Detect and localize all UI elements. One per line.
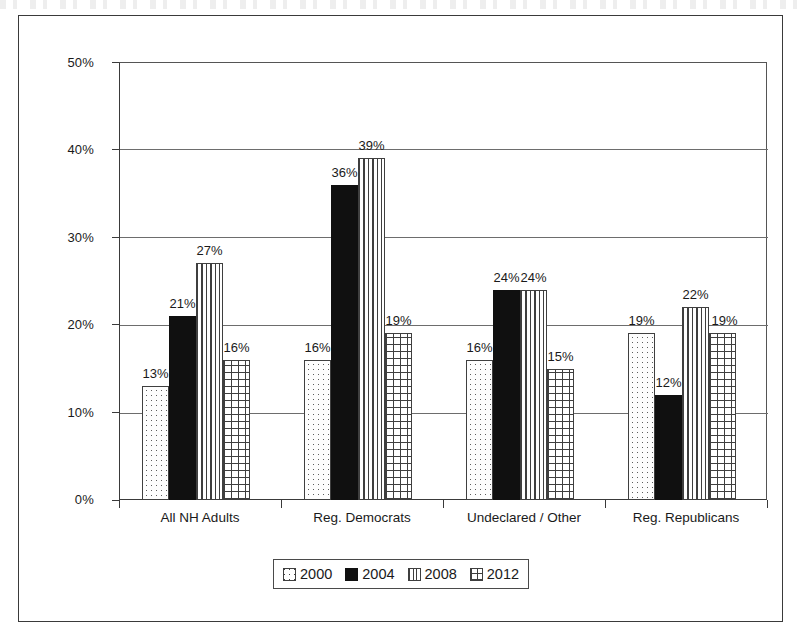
plot-area: 13% 21% 27% 16% 16% 36% 39% 19% 16% 24% … xyxy=(119,62,767,500)
legend-label-2000: 2000 xyxy=(300,566,332,582)
bar-label-2012-reg-republicans: 19% xyxy=(694,313,755,328)
legend-label-2008: 2008 xyxy=(425,566,457,582)
legend-item-2000[interactable]: 2000 xyxy=(283,566,332,582)
y-axis-tick-mark-50 xyxy=(112,62,119,63)
bar-label-2004-reg-democrats: 36% xyxy=(314,165,375,180)
legend: 2000 2004 2008 2012 xyxy=(273,559,529,589)
bar-2008-reg-democrats[interactable] xyxy=(358,158,385,500)
bar-label-2000-reg-democrats: 16% xyxy=(287,340,348,355)
y-axis-tick-label-50: 50% xyxy=(19,55,94,70)
x-axis-category-label-undeclared-other: Undeclared / Other xyxy=(443,510,605,525)
y-axis-tick-mark-0 xyxy=(112,500,119,501)
chart-frame: 50% 40% 30% 20% 10% 0% 13% 21% 27% 16% 1… xyxy=(18,15,783,622)
bar-label-2000-all-nh-adults: 13% xyxy=(125,366,186,381)
bar-label-2008-reg-republicans: 22% xyxy=(665,287,726,302)
x-axis-category-label-all-nh-adults: All NH Adults xyxy=(119,510,281,525)
y-axis-tick-mark-20 xyxy=(112,324,119,325)
legend-item-2008[interactable]: 2008 xyxy=(408,566,457,582)
legend-item-2004[interactable]: 2004 xyxy=(345,566,394,582)
bar-label-2004-all-nh-adults: 21% xyxy=(152,296,213,311)
bar-label-2000-reg-republicans: 19% xyxy=(611,313,672,328)
bar-2000-reg-democrats[interactable] xyxy=(304,360,331,500)
y-axis-tick-mark-40 xyxy=(112,149,119,150)
y-axis-tick-label-20: 20% xyxy=(19,317,94,332)
x-axis-tick-mark-3 xyxy=(605,500,606,508)
bar-2000-reg-republicans[interactable] xyxy=(628,333,655,500)
x-axis-category-label-reg-republicans: Reg. Republicans xyxy=(605,510,767,525)
bar-label-2008-undeclared-other: 24% xyxy=(503,270,564,285)
bar-2012-all-nh-adults[interactable] xyxy=(223,360,250,500)
bar-2000-undeclared-other[interactable] xyxy=(466,360,493,500)
bar-2004-reg-republicans[interactable] xyxy=(655,395,682,500)
bar-label-2008-reg-democrats: 39% xyxy=(341,138,402,153)
x-axis-tick-mark-4 xyxy=(767,500,768,508)
bar-2008-reg-republicans[interactable] xyxy=(682,307,709,500)
legend-swatch-solid-black-icon xyxy=(345,568,358,581)
gridline-40 xyxy=(120,149,768,150)
y-axis-tick-label-30: 30% xyxy=(19,230,94,245)
bar-2000-all-nh-adults[interactable] xyxy=(142,386,169,500)
bar-2012-undeclared-other[interactable] xyxy=(547,369,574,500)
bar-label-2004-reg-republicans: 12% xyxy=(638,375,699,390)
x-axis-tick-mark-2 xyxy=(443,500,444,508)
bar-2008-undeclared-other[interactable] xyxy=(520,290,547,500)
x-axis-tick-mark-1 xyxy=(281,500,282,508)
bar-label-2000-undeclared-other: 16% xyxy=(449,340,510,355)
bar-2012-reg-republicans[interactable] xyxy=(709,333,736,500)
gridline-30 xyxy=(120,237,768,238)
bar-2004-undeclared-other[interactable] xyxy=(493,290,520,500)
bar-label-2012-all-nh-adults: 16% xyxy=(206,340,267,355)
legend-swatch-dotted-icon xyxy=(283,568,296,581)
y-axis-tick-label-40: 40% xyxy=(19,142,94,157)
y-axis-tick-label-10: 10% xyxy=(19,405,94,420)
bar-label-2012-reg-democrats: 19% xyxy=(368,313,429,328)
bar-label-2008-all-nh-adults: 27% xyxy=(179,243,240,258)
y-axis-tick-mark-30 xyxy=(112,237,119,238)
legend-swatch-vertical-stripes-icon xyxy=(408,568,421,581)
bar-2004-all-nh-adults[interactable] xyxy=(169,316,196,500)
x-axis-tick-mark-0 xyxy=(119,500,120,508)
legend-label-2012: 2012 xyxy=(487,566,519,582)
y-axis-tick-label-0: 0% xyxy=(19,492,94,507)
legend-swatch-crosshatch-grid-icon xyxy=(470,568,483,581)
legend-label-2004: 2004 xyxy=(362,566,394,582)
scan-edge-artifact xyxy=(0,0,798,9)
y-axis-tick-mark-10 xyxy=(112,412,119,413)
legend-item-2012[interactable]: 2012 xyxy=(470,566,519,582)
bar-2012-reg-democrats[interactable] xyxy=(385,333,412,500)
bar-label-2012-undeclared-other: 15% xyxy=(530,349,591,364)
x-axis-category-label-reg-democrats: Reg. Democrats xyxy=(281,510,443,525)
